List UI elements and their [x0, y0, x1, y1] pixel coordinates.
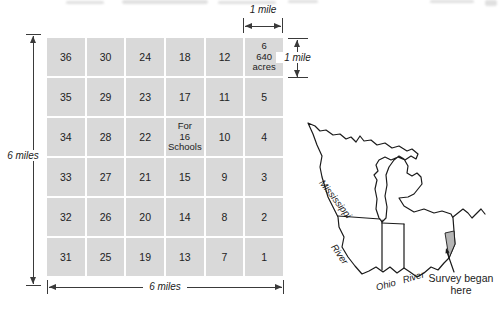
grid-section-cell: 12: [206, 38, 244, 76]
left-dimension-top-tick: [26, 34, 41, 35]
arrowhead-up-icon: [30, 36, 36, 43]
grid-section-cell: 29: [87, 78, 125, 116]
grid-section-cell: 32: [47, 198, 85, 236]
survey-note-line2: here: [450, 284, 471, 296]
grid-section-cell: 1: [245, 238, 283, 276]
grid-section-cell: 28: [87, 118, 125, 156]
bottom-dimension-right-tick: [283, 280, 284, 294]
grid-section-cell: 20: [126, 198, 164, 236]
grid-section-cell: 14: [166, 198, 204, 236]
grid-section-cell: 8: [206, 198, 244, 236]
grid-section-cell: 23: [126, 78, 164, 116]
grid-section-cell: 26: [87, 198, 125, 236]
left-dimension-bottom-tick: [26, 285, 41, 286]
grid-section-cell: 17: [166, 78, 204, 116]
bottom-dimension-label: 6 miles: [143, 281, 187, 292]
grid-section-cell: 22: [126, 118, 164, 156]
grid-section-cell: 36: [47, 38, 85, 76]
arrowhead-right-icon: [275, 284, 282, 290]
arrowhead-down-icon: [30, 277, 36, 284]
top-dimension-left-tick: [243, 18, 244, 33]
cropped-text-artifact: [430, 0, 474, 3]
right-dimension-bottom-tick: [288, 77, 308, 78]
arrowhead-left-icon: [245, 23, 252, 29]
river-line-east: [453, 209, 485, 218]
grid-section-cell: 18: [166, 38, 204, 76]
grid-section-cell: For16Schools: [166, 118, 204, 156]
grid-section-cell: 35: [47, 78, 85, 116]
grid-section-cell: 11: [206, 78, 244, 116]
right-dimension-label: 1 mile: [276, 52, 319, 63]
grid-section-cell: 31: [47, 238, 85, 276]
cropped-text-artifact: [66, 1, 104, 4]
region-map: Mississippi River Ohio River Survey bega…: [295, 90, 501, 316]
cropped-text-artifact: [122, 0, 208, 4]
grid-section-cell: 13: [166, 238, 204, 276]
township-grid: 36302418126640acres35292317115342822For1…: [47, 38, 283, 276]
grid-section-cell: 34: [47, 118, 85, 156]
cropped-text-artifact: [288, 0, 318, 3]
grid-section-cell: 25: [87, 238, 125, 276]
arrowhead-up-icon: [294, 40, 300, 47]
top-dimension-right-tick: [282, 18, 283, 33]
grid-section-cell: 9: [206, 158, 244, 196]
grid-section-cell: 4: [245, 118, 283, 156]
grid-section-cell: 24: [126, 38, 164, 76]
arrowhead-down-icon: [294, 70, 300, 77]
grid-section-cell: 3: [245, 158, 283, 196]
grid-section-cell: 15: [166, 158, 204, 196]
grid-section-cell: 27: [87, 158, 125, 196]
bottom-dimension-left-tick: [47, 280, 48, 294]
grid-section-cell: 21: [126, 158, 164, 196]
grid-section-cell: 2: [245, 198, 283, 236]
grid-section-cell: 10: [206, 118, 244, 156]
arrowhead-left-icon: [49, 284, 56, 290]
grid-section-cell: 7: [206, 238, 244, 276]
arrowhead-right-icon: [274, 23, 281, 29]
survey-note-line1: Survey began: [429, 272, 494, 284]
top-dimension-label: 1 mile: [232, 4, 294, 15]
grid-section-cell: 30: [87, 38, 125, 76]
grid-section-cell: 33: [47, 158, 85, 196]
left-dimension-label: 6 miles: [0, 150, 46, 161]
figure-canvas: 36302418126640acres35292317115342822For1…: [0, 0, 501, 316]
grid-section-cell: 19: [126, 238, 164, 276]
right-dimension-top-tick: [288, 38, 308, 39]
grid-section-cell: 5: [245, 78, 283, 116]
cropped-text-artifact: [485, 0, 497, 6]
